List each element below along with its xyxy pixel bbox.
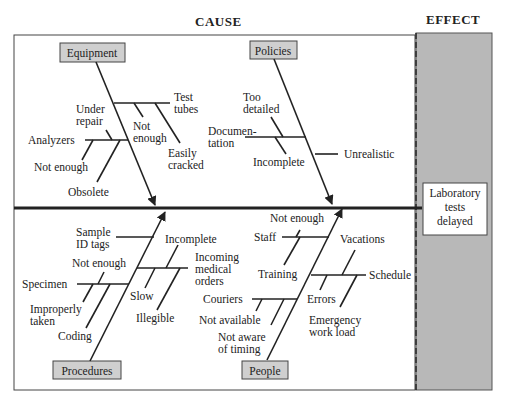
proc-incomplete: Incomplete <box>165 233 217 246</box>
equip-not-enough-1: Not <box>133 120 151 132</box>
equip-under-repair: Under <box>76 103 105 115</box>
people-errors: Errors <box>307 293 336 305</box>
effect-text-1: Laboratory <box>429 187 480 200</box>
procedures-label: Procedures <box>61 365 113 377</box>
people-label: People <box>249 365 280 378</box>
svg-text:work load: work load <box>309 326 356 338</box>
proc-slow: Slow <box>130 290 154 302</box>
effect-text-3: delayed <box>437 215 473 228</box>
effect-text-2: tests <box>445 201 466 213</box>
people-not-available: Not available <box>199 314 261 326</box>
pol-documentation: Documen- <box>208 125 257 137</box>
cause-header: CAUSE <box>195 14 242 29</box>
effect-header: EFFECT <box>426 12 480 27</box>
pol-too-detailed: Too <box>243 91 261 103</box>
equip-analyzers: Analyzers <box>28 134 75 147</box>
svg-text:orders: orders <box>195 275 224 287</box>
svg-text:tation: tation <box>208 137 234 149</box>
people-couriers: Couriers <box>203 293 243 305</box>
people-staff: Staff <box>254 231 276 243</box>
equip-test-tubes: Test <box>174 91 194 103</box>
svg-text:repair: repair <box>76 115 103 128</box>
svg-text:detailed: detailed <box>243 103 280 115</box>
svg-text:cracked: cracked <box>168 159 204 171</box>
equipment-label: Equipment <box>67 47 118 60</box>
svg-text:tubes: tubes <box>174 103 199 115</box>
people-not-enough: Not enough <box>270 212 324 225</box>
pol-unrealistic: Unrealistic <box>344 148 394 160</box>
people-schedule: Schedule <box>369 269 411 281</box>
people-training: Training <box>258 268 297 281</box>
pol-incomplete: Incomplete <box>253 156 305 169</box>
equip-obsolete: Obsolete <box>68 186 109 198</box>
proc-illegible: Illegible <box>136 312 174 325</box>
svg-text:of timing: of timing <box>218 343 261 356</box>
svg-text:ID tags: ID tags <box>76 238 110 251</box>
svg-text:medical: medical <box>195 263 231 275</box>
svg-text:taken: taken <box>30 315 55 327</box>
fishbone-diagram: CAUSE EFFECT Laboratory tests delayed Eq… <box>0 0 506 398</box>
people-vacations: Vacations <box>340 233 385 245</box>
equip-not-enough-2: Not enough <box>34 161 88 174</box>
proc-specimen: Specimen <box>22 278 68 291</box>
proc-not-enough: Not enough <box>72 257 126 270</box>
svg-text:enough: enough <box>133 132 167 145</box>
proc-coding: Coding <box>58 330 92 343</box>
policies-label: Policies <box>255 45 292 57</box>
people-not-aware-of-timing: Not aware <box>218 331 266 343</box>
